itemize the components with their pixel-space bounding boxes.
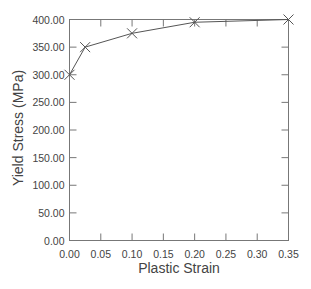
series-line [70,20,289,75]
y-tick-label: 300.00 [32,69,64,81]
x-marker-icon [80,42,90,52]
chart: 0.000.050.100.150.200.250.300.35 0.0050.… [0,0,311,289]
x-tick-label: 0.05 [91,248,112,260]
x-tick-label: 0.20 [184,248,205,260]
y-tick-label: 200.00 [32,124,64,136]
y-tick-label: 250.00 [32,96,64,108]
y-tick-label: 100.00 [32,179,64,191]
x-tick-label: 0.00 [59,248,80,260]
x-tick-labels: 0.000.050.100.150.200.250.300.35 [59,248,299,260]
y-tick-label: 400.00 [32,14,64,26]
y-tick-label: 150.00 [32,152,64,164]
y-tick-label: 350.00 [32,41,64,53]
plot-area [70,20,289,241]
y-axis-label: Yield Stress (MPa) [10,70,26,186]
y-tick-label: 50.00 [38,207,64,219]
plot-border [70,20,289,241]
y-tick-labels: 0.0050.00100.00150.00200.00250.00300.003… [32,14,64,247]
axis-ticks [70,20,289,241]
data-series [65,15,294,80]
x-tick-label: 0.30 [247,248,268,260]
x-marker-icon [127,28,137,38]
x-tick-label: 0.35 [278,248,299,260]
y-tick-label: 0.00 [44,235,65,247]
x-tick-label: 0.10 [122,248,143,260]
x-axis-label: Plastic Strain [138,260,220,276]
x-tick-label: 0.15 [153,248,174,260]
x-tick-label: 0.25 [216,248,237,260]
